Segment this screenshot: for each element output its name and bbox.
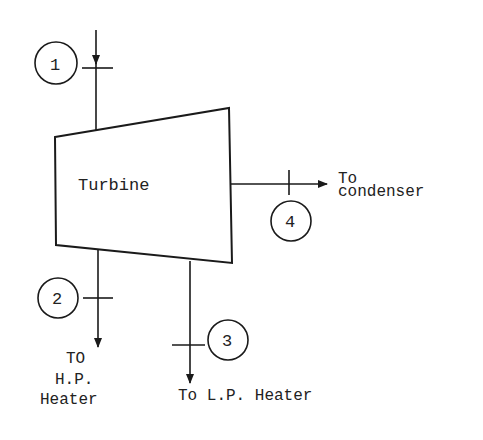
svg-text:4: 4	[285, 213, 295, 232]
inlet-stream-1: 1	[35, 30, 113, 130]
outlet-stream-4: 4 To condenser	[231, 170, 424, 241]
turbine-diagram: Turbine 1 4 To condenser 2 TO H.P. Heate…	[0, 0, 483, 440]
condenser-label: condenser	[338, 183, 424, 201]
svg-text:2: 2	[52, 290, 62, 309]
turbine-label: Turbine	[78, 176, 149, 195]
svg-text:1: 1	[50, 56, 60, 75]
hp-heater-label-heater: Heater	[40, 391, 98, 409]
hp-heater-label-hp: H.P.	[55, 371, 93, 389]
hp-heater-label-to: TO	[66, 350, 85, 368]
lp-heater-label: To L.P. Heater	[178, 387, 312, 405]
extraction-stream-3: 3 To L.P. Heater	[172, 261, 312, 405]
extraction-stream-2: 2 TO H.P. Heater	[38, 250, 113, 409]
svg-text:3: 3	[222, 332, 232, 351]
